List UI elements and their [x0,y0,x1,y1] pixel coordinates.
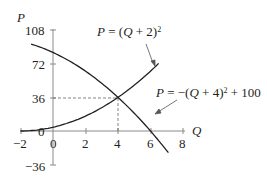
label-tail: + 100 [228,85,261,100]
x-tick-0: 0 [50,137,57,150]
y-axis-label: P [17,11,25,24]
label-var: Q [123,24,132,39]
label-rest: + 2) [133,24,158,39]
label-lhs: P [97,24,105,39]
x-tick-6: 6 [147,137,154,150]
label-var: Q [189,85,198,100]
x-tick-8: 8 [179,137,186,150]
label-rest: + 4) [199,85,224,100]
x-axis-label: Q [192,124,201,137]
series-label-demand: P = −(Q + 4)2 + 100 [156,86,261,99]
y-tick-0: 0 [38,125,45,138]
label-arrows [146,44,177,114]
y-tick-neg36: −36 [25,160,45,173]
series-label-supply: P = (Q + 2)2 [97,25,161,38]
label-eq: = ( [105,24,123,39]
label-lhs: P [156,85,164,100]
y-tick-36: 36 [32,92,45,105]
x-tick-4: 4 [114,137,121,150]
equilibrium-guides [53,98,118,131]
label-eq: = −( [164,85,190,100]
label-exp: 2 [157,25,161,34]
x-tick-2: 2 [82,137,89,150]
y-tick-108: 108 [25,24,45,37]
label-exp: 2 [224,86,228,95]
x-tick-neg2: −2 [13,137,27,150]
y-tick-72: 72 [32,58,45,71]
